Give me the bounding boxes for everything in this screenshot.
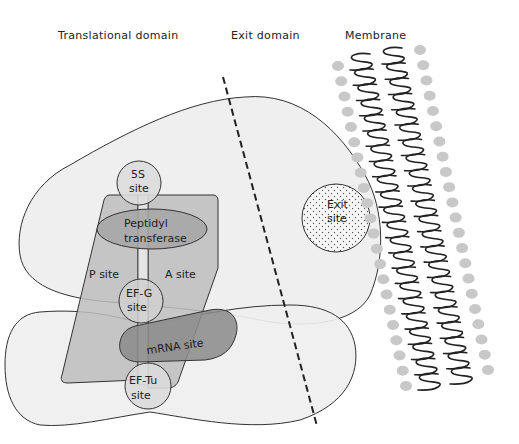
lipid-head	[453, 228, 465, 238]
ef-g-label-line2: site	[127, 301, 147, 314]
five-s-label-line2: site	[129, 182, 149, 195]
five-s-label-line1: 5S	[131, 168, 145, 181]
lipid-head	[450, 213, 462, 223]
lipid-head	[417, 60, 429, 70]
lipid-tail	[408, 328, 430, 345]
lipid-head	[332, 61, 344, 71]
lipid-head	[351, 152, 363, 162]
lipid-tail	[440, 322, 462, 339]
lipid-head	[355, 168, 367, 178]
lipid-tail	[405, 154, 427, 171]
lipid-head	[345, 122, 357, 132]
lipid-tail	[366, 130, 388, 147]
lipid-tail	[405, 313, 427, 330]
lipid-tail	[395, 108, 417, 125]
lipid-tail	[398, 124, 420, 141]
lipid-tail	[363, 114, 385, 131]
lipid-tail	[388, 78, 410, 95]
ef-g-label-line1: EF-G	[126, 287, 152, 300]
lipid-head	[433, 136, 445, 146]
lipid-head	[472, 319, 484, 329]
lipid-head	[361, 198, 373, 208]
lipid-head	[446, 197, 458, 207]
lipid-head	[420, 75, 432, 85]
lipid-head	[440, 167, 452, 177]
lipid-head	[335, 76, 347, 86]
a-site-label: A site	[165, 268, 196, 281]
header-membrane: Membrane	[345, 29, 406, 42]
lipid-head	[459, 258, 471, 268]
lipid-tail	[399, 282, 421, 299]
peptidyl-label-line2: transferase	[124, 232, 187, 245]
lipid-head	[358, 183, 370, 193]
lipid-tail	[434, 291, 456, 308]
lipid-head	[397, 366, 409, 376]
lipid-tail	[373, 160, 395, 177]
lipid-tail	[392, 93, 414, 110]
ef-tu-label-line2: site	[131, 389, 151, 402]
lipid-tail	[402, 297, 424, 314]
lipid-tail	[389, 236, 411, 253]
lipid-tail	[421, 230, 443, 247]
lipid-tail	[382, 206, 404, 223]
lipid-tail	[427, 261, 449, 278]
lipid-head	[368, 229, 380, 239]
lipid-head	[377, 274, 389, 284]
lipid-head	[381, 290, 393, 300]
lipid-head	[437, 152, 449, 162]
lipid-tail	[414, 200, 436, 217]
lipid-tail	[424, 246, 446, 263]
lipid-tail	[353, 69, 375, 86]
ribosome-diagram: Translational domain Exit domain Membran…	[0, 0, 519, 444]
lipid-head	[390, 335, 402, 345]
lipid-head	[338, 91, 350, 101]
lipid-head	[443, 182, 455, 192]
ef-tu-label-line1: EF-Tu	[129, 374, 157, 387]
lipid-head	[348, 137, 360, 147]
lipid-head	[342, 107, 354, 117]
lipid-head	[469, 304, 481, 314]
lipid-head	[482, 365, 494, 375]
lipid-tail	[408, 169, 430, 186]
lipid-head	[387, 320, 399, 330]
lipid-tail	[376, 175, 398, 192]
header-translational-domain: Translational domain	[57, 29, 178, 42]
lipid-head	[430, 121, 442, 131]
lipid-tail	[447, 352, 469, 369]
lipid-tail	[395, 267, 417, 284]
lipid-tail	[360, 99, 382, 116]
lipid-tail	[386, 221, 408, 238]
lipid-tail	[356, 84, 378, 101]
exit-site-label-line1: Exit	[327, 198, 349, 211]
lipid-head	[463, 274, 475, 284]
lipid-tail	[450, 367, 472, 384]
peptidyl-label-line1: Peptidyl	[124, 217, 168, 230]
lipid-tail	[350, 53, 372, 70]
lipid-head	[479, 350, 491, 360]
lipid-head	[414, 45, 426, 55]
lipid-head	[374, 259, 386, 269]
lipid-tail	[437, 307, 459, 324]
exit-site-label-line2: site	[327, 212, 347, 225]
lipid-tail	[392, 252, 414, 269]
lipid-tail	[444, 337, 466, 354]
lipid-tail	[369, 145, 391, 162]
lipid-head	[466, 289, 478, 299]
lipid-tail	[412, 343, 434, 360]
lipid-tail	[411, 185, 433, 202]
lipid-head	[427, 106, 439, 116]
header-exit-domain: Exit domain	[231, 29, 300, 42]
lipid-tail	[401, 139, 423, 156]
lipid-head	[384, 305, 396, 315]
lipid-tail	[379, 191, 401, 208]
lipid-tail	[415, 358, 437, 375]
lipid-head	[424, 91, 436, 101]
lipid-head	[400, 381, 412, 391]
lipid-tail	[431, 276, 453, 293]
p-site-label: P site	[89, 268, 119, 281]
lipid-tail	[418, 373, 440, 390]
lipid-tail	[382, 47, 404, 64]
lipid-head	[371, 244, 383, 254]
lipid-tail	[385, 63, 407, 80]
lipid-head	[364, 213, 376, 223]
